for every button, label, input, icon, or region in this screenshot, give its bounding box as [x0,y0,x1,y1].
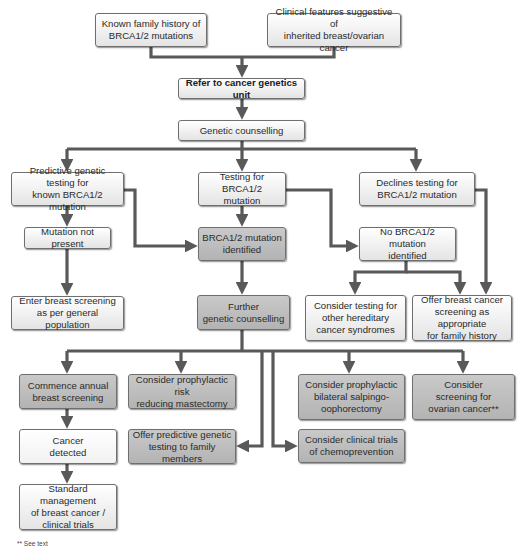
connector-no-mutation-right [406,272,460,289]
node-label: Commence annual breast screening [28,380,109,404]
node-counselling: Genetic counselling [178,120,305,141]
node-predictive-testing: Predictive genetic testing for known BRC… [11,172,124,206]
node-label: Known family history of BRCA1/2 mutation… [102,18,201,42]
node-label: Testing for BRCA1/2 mutation [202,171,282,207]
node-label: Refer to cancer genetics unit [182,77,301,101]
node-label: Predictive genetic testing for known BRC… [15,165,120,213]
node-refer: Refer to cancer genetics unit [178,78,305,99]
arrow-declines-to-offer [475,190,486,289]
node-label: No BRCA1/2 mutation identified [363,226,452,262]
connector-family-history [151,47,242,57]
node-label: Cancer detected [50,435,87,459]
node-further-counselling: Further genetic counselling [197,295,290,330]
node-label: Consider clinical trials of chemoprevent… [305,434,398,458]
node-label: Further genetic counselling [203,301,285,325]
node-no-mutation: No BRCA1/2 mutation identified [359,227,456,261]
node-testing: Testing for BRCA1/2 mutation [198,172,286,206]
node-label: Clinical features suggestive of inherite… [271,6,397,54]
node-family-history: Known family history of BRCA1/2 mutation… [95,13,207,47]
node-label: Consider testing for other hereditary ca… [314,300,397,336]
arrow-predictive-to-identified [124,190,192,246]
node-label: Declines testing for BRCA1/2 mutation [376,177,458,201]
node-standard-management: Standard management of breast cancer / c… [19,484,117,530]
node-label: Genetic counselling [200,125,284,137]
node-label: BRCA1/2 mutation identified [202,232,281,256]
node-annual-screening: Commence annual breast screening [19,374,117,409]
arrow-to-family-testing [242,351,262,446]
connector-no-mutation-split [355,261,406,289]
footnote: ** See text [17,540,48,547]
node-clinical-features: Clinical features suggestive of inherite… [267,13,401,47]
node-ovarian-screening: Consider screening for ovarian cancer** [412,374,515,420]
node-label: Offer breast cancer screening as appropr… [416,294,508,342]
node-offer-screening: Offer breast cancer screening as appropr… [412,295,512,341]
node-label: Consider prophylactic bilateral salpingo… [305,379,397,415]
node-identified: BRCA1/2 mutation identified [198,227,286,261]
node-label: Consider prophylactic risk reducing mast… [132,374,232,410]
node-enter-screening: Enter breast screening as per general po… [11,296,124,330]
flowchart-canvas: Known family history of BRCA1/2 mutation… [0,0,525,556]
node-label: Offer predictive genetic testing to fami… [132,429,232,465]
node-label: Standard management of breast cancer / c… [23,483,113,531]
arrow-testing-to-no-mutation [286,190,353,246]
node-label: Consider screening for ovarian cancer** [428,379,498,415]
node-mastectomy: Consider prophylactic risk reducing mast… [128,374,236,409]
node-family-testing: Offer predictive genetic testing to fami… [128,429,236,464]
node-label: Enter breast screening as per general po… [15,295,120,331]
node-salpingo: Consider prophylactic bilateral salpingo… [298,374,405,420]
node-declines: Declines testing for BRCA1/2 mutation [359,172,475,206]
arrow-to-chemoprevention [273,351,292,446]
node-label: Mutation not present [28,226,107,250]
node-cancer-detected: Cancer detected [19,429,117,464]
node-other-syndromes: Consider testing for other hereditary ca… [305,295,406,341]
node-not-present: Mutation not present [24,227,111,249]
node-chemoprevention: Consider clinical trials of chemoprevent… [298,429,405,463]
